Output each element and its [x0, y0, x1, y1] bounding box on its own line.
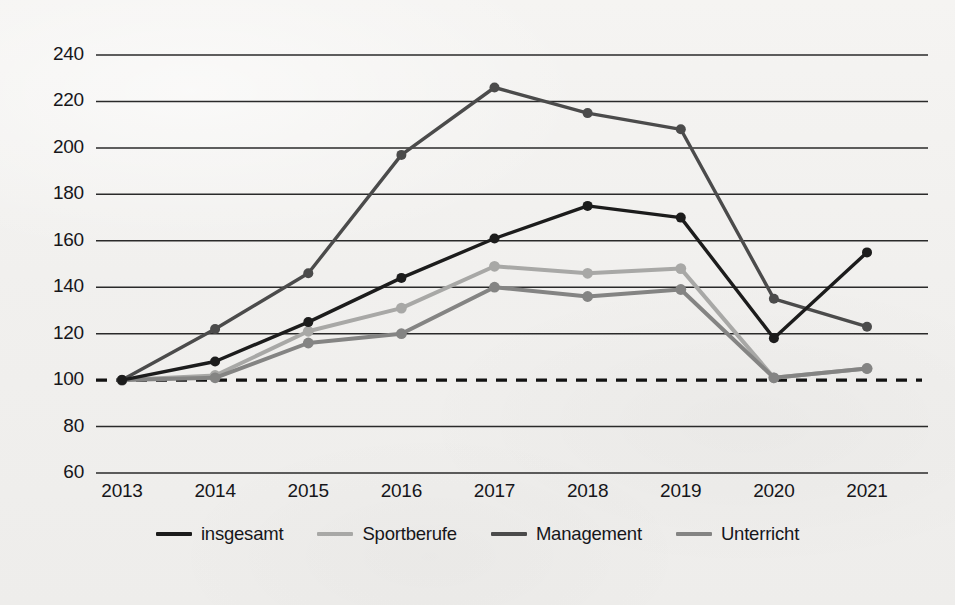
- data-point: [490, 234, 500, 244]
- data-point: [675, 284, 686, 295]
- plot-area: [0, 0, 955, 605]
- legend-swatch: [676, 532, 712, 536]
- legend-label: Unterricht: [721, 523, 799, 545]
- legend-swatch: [156, 532, 192, 536]
- data-point: [117, 375, 127, 385]
- data-point: [582, 268, 593, 279]
- y-axis-tick-label: 140: [22, 275, 84, 297]
- y-axis-tick-label: 60: [22, 461, 84, 483]
- y-axis-tick-label: 220: [22, 89, 84, 111]
- data-point: [862, 363, 873, 374]
- legend-swatch: [317, 532, 353, 536]
- legend-item-management[interactable]: Management: [491, 523, 642, 545]
- data-point: [676, 124, 686, 134]
- data-point: [489, 282, 500, 293]
- chart-legend: insgesamtSportberufeManagementUnterricht: [0, 523, 955, 545]
- data-point: [396, 328, 407, 339]
- x-axis-tick-label: 2018: [548, 480, 628, 502]
- data-point: [490, 83, 500, 93]
- data-point: [862, 322, 872, 332]
- data-point: [303, 338, 314, 349]
- y-axis-tick-label: 240: [22, 43, 84, 65]
- data-point: [210, 357, 220, 367]
- x-axis-tick-label: 2013: [82, 480, 162, 502]
- data-point: [303, 326, 314, 337]
- data-point: [583, 201, 593, 211]
- x-axis-tick-label: 2016: [361, 480, 441, 502]
- data-point: [676, 213, 686, 223]
- legend-label: Sportberufe: [362, 523, 456, 545]
- legend-item-sportberufe[interactable]: Sportberufe: [317, 523, 456, 545]
- y-axis-tick-label: 180: [22, 182, 84, 204]
- y-axis-tick-label: 100: [22, 368, 84, 390]
- data-point: [396, 303, 407, 314]
- x-axis-tick-label: 2014: [175, 480, 255, 502]
- y-axis-tick-label: 160: [22, 229, 84, 251]
- data-point: [769, 294, 779, 304]
- series-sportberufe: [117, 261, 873, 386]
- legend-item-unterricht[interactable]: Unterricht: [676, 523, 799, 545]
- index-line-chart: 2402202001801601401201008060 20132014201…: [0, 0, 955, 605]
- data-point: [210, 372, 221, 383]
- x-axis-tick-label: 2021: [827, 480, 907, 502]
- data-point: [862, 247, 872, 257]
- data-point: [396, 273, 406, 283]
- data-point: [769, 333, 779, 343]
- y-axis-tick-label: 120: [22, 322, 84, 344]
- legend-label: insgesamt: [201, 523, 284, 545]
- y-axis-tick-label: 200: [22, 136, 84, 158]
- data-point: [210, 324, 220, 334]
- data-point: [582, 291, 593, 302]
- data-point: [303, 268, 313, 278]
- data-point: [303, 317, 313, 327]
- x-axis-tick-label: 2020: [734, 480, 814, 502]
- data-point: [583, 108, 593, 118]
- legend-label: Management: [536, 523, 642, 545]
- y-axis-tick-label: 80: [22, 415, 84, 437]
- x-axis-tick-label: 2019: [641, 480, 721, 502]
- data-point: [675, 263, 686, 274]
- data-point: [396, 150, 406, 160]
- data-point: [489, 261, 500, 272]
- data-point: [769, 372, 780, 383]
- legend-item-insgesamt[interactable]: insgesamt: [156, 523, 284, 545]
- legend-swatch: [491, 532, 527, 536]
- x-axis-tick-label: 2017: [455, 480, 535, 502]
- x-axis-tick-label: 2015: [268, 480, 348, 502]
